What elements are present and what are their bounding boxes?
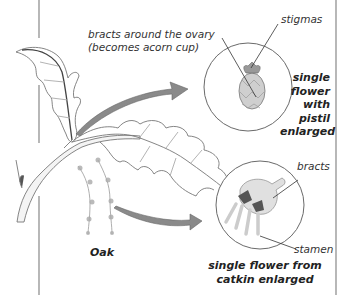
pistil-caption-line: flower (280, 85, 330, 99)
stigmas-label: stigmas (281, 13, 322, 26)
catkin-flower-caption: single flower from catkin enlarged (200, 259, 330, 286)
catkin-caption-line: catkin enlarged (200, 273, 330, 287)
pistil-detail-circle (204, 43, 292, 131)
pistil-caption-line: enlarged (280, 125, 330, 139)
upper-oak-leaf-icon (16, 47, 81, 142)
lower-oak-leaf-icon (72, 121, 228, 196)
oak-flower-diagram: bracts around the ovary (becomes acorn c… (0, 0, 341, 295)
bracts-ovary-label: bracts around the ovary (becomes acorn c… (88, 28, 215, 54)
catkin-caption-line: single flower from (200, 259, 330, 273)
pistil-caption-line: single (280, 71, 330, 85)
bracts-ovary-line-2: (becomes acorn cup) (88, 41, 215, 54)
catkin-flower-detail-circle (216, 161, 304, 249)
oak-label: Oak (90, 246, 114, 260)
stamen-label: stamen (294, 243, 333, 256)
arrow-to-catkin-flower-icon (114, 206, 202, 230)
arrow-to-pistil-icon (76, 82, 188, 136)
catkin-icon (78, 158, 115, 236)
pistil-caption-line: pistil (280, 112, 330, 126)
bracts-ovary-line-1: bracts around the ovary (88, 28, 215, 41)
bracts-label: bracts (297, 160, 330, 173)
pistil-caption-line: with (280, 98, 330, 112)
pistil-caption: single flower with pistil enlarged (280, 71, 330, 139)
